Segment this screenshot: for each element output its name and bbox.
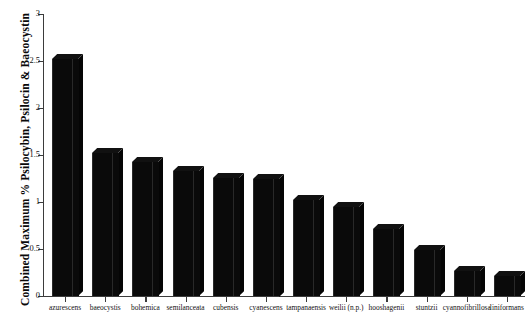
bar-semilanceata xyxy=(173,171,199,296)
x-tick-mark xyxy=(145,297,146,302)
bar-edge-highlight xyxy=(152,162,153,296)
x-tick-mark xyxy=(226,297,227,302)
bar-front-face xyxy=(333,207,360,296)
bar-liniformans xyxy=(494,276,520,296)
y-tick-label: 3 xyxy=(36,8,40,19)
bar-bohemica xyxy=(132,162,158,296)
y-tick-label: 1.5 xyxy=(29,149,40,160)
bar-top-face xyxy=(173,166,204,171)
y-tick-label: 1 xyxy=(36,196,40,207)
bar-front-face xyxy=(92,153,119,296)
x-axis-labels: azurescensbaeocystisbohemicasemilanceata… xyxy=(43,303,525,319)
bar-baeocystis xyxy=(92,153,118,296)
bar-front-face xyxy=(213,178,240,296)
bar-front-face xyxy=(132,162,159,296)
x-tick-mark xyxy=(467,297,468,302)
bar-edge-highlight xyxy=(273,179,274,297)
bar-azurescens xyxy=(52,59,78,296)
bar-chart: Combined Maximum % Psilocybin, Psilocin … xyxy=(0,0,529,321)
y-tick-label: 2 xyxy=(36,102,40,113)
y-tick-label: 0.5 xyxy=(29,243,40,254)
bar-front-face xyxy=(454,271,481,296)
x-tick-mark xyxy=(65,297,66,302)
bar-edge-highlight xyxy=(353,207,354,296)
x-tick-mark xyxy=(266,297,267,302)
bar-front-face xyxy=(173,171,200,296)
bar-edge-highlight xyxy=(393,229,394,296)
bar-edge-highlight xyxy=(233,178,234,296)
bar-top-face xyxy=(52,54,83,59)
bar-top-face xyxy=(454,266,485,271)
x-tick-mark xyxy=(386,297,387,302)
bar-front-face xyxy=(253,179,280,297)
bar-edge-highlight xyxy=(313,200,314,296)
bar-top-face xyxy=(132,157,163,162)
x-label-liniformans: liniformans xyxy=(483,303,529,313)
y-tick-label: 2.5 xyxy=(29,55,40,66)
bar-edge-highlight xyxy=(434,250,435,296)
bar-edge-highlight xyxy=(112,153,113,296)
bar-top-face xyxy=(414,245,445,250)
bar-hooshagenii xyxy=(373,229,399,296)
bar-stuntzii xyxy=(414,250,440,296)
bar-top-face xyxy=(333,202,364,207)
x-tick-mark xyxy=(105,297,106,302)
bar-cyanescens xyxy=(253,179,279,297)
x-tick-mark xyxy=(507,297,508,302)
bar-edge-highlight xyxy=(474,271,475,296)
y-tick-label: 0 xyxy=(36,290,40,301)
bar-edge-highlight xyxy=(72,59,73,296)
bar-front-face xyxy=(414,250,441,296)
bar-front-face xyxy=(293,200,320,296)
bar-tampanaensis xyxy=(293,200,319,296)
bar-cyannofibrillosa xyxy=(454,271,480,296)
x-tick-mark xyxy=(306,297,307,302)
bar-edge-highlight xyxy=(514,276,515,296)
bar-top-face xyxy=(253,174,284,179)
x-tick-mark xyxy=(346,297,347,302)
x-tick-mark xyxy=(427,297,428,302)
plot-area: 00.511.522.53 xyxy=(43,12,525,297)
x-tick-mark xyxy=(186,297,187,302)
bar-cubensis xyxy=(213,178,239,296)
bar-top-face xyxy=(494,271,525,276)
x-axis-line xyxy=(43,296,525,297)
bar-weilii--n-p-- xyxy=(333,207,359,296)
bar-edge-highlight xyxy=(193,171,194,296)
bar-front-face xyxy=(373,229,400,296)
bar-front-face xyxy=(52,59,79,296)
bar-top-face xyxy=(213,173,244,178)
bar-front-face xyxy=(494,276,521,296)
bar-top-face xyxy=(293,195,324,200)
